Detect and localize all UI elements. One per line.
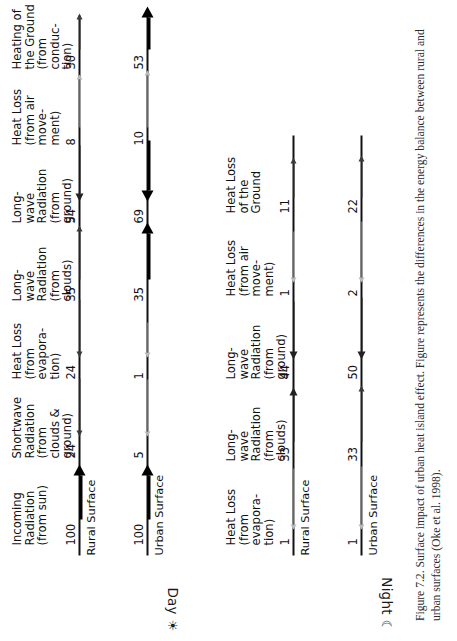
day-flux-6-rural-value: 30 bbox=[63, 55, 77, 70]
night-flux-3-caption: Heat Loss (from air move- ment) bbox=[224, 222, 274, 296]
night-rural-surface-label: Rural Surface bbox=[298, 479, 311, 555]
figure-rotation-wrapper: Day ☀ Rural Surface Urban Surface Incomi… bbox=[0, 0, 457, 641]
night-flux-3-urban-value: 2 bbox=[345, 289, 359, 296]
day-block: Day ☀ Rural Surface Urban Surface Incomi… bbox=[4, 0, 204, 641]
night-flux-0-urban-value: 1 bbox=[345, 538, 359, 545]
figure-caption-text: Figure 7.2. Surface impact of urban heat… bbox=[413, 21, 444, 621]
figure-caption: Figure 7.2. Surface impact of urban heat… bbox=[405, 14, 451, 628]
day-flux-3-rural-value: 35 bbox=[63, 287, 77, 302]
day-flux-6-urban-value: 53 bbox=[131, 55, 145, 70]
sun-icon: ☀ bbox=[166, 619, 179, 631]
day-flux-2-urban-value: 1 bbox=[131, 372, 145, 379]
night-flux-0-rural-value: 1 bbox=[277, 538, 291, 545]
day-flux-4-urban-value: 69 bbox=[131, 209, 145, 224]
night-block: Night ☾ Rural Surface Urban Surface Heat… bbox=[218, 0, 418, 641]
period-label-day: Day ☀ bbox=[164, 587, 180, 631]
day-flux-5-caption: Heat Loss (from air move- ment) bbox=[10, 71, 60, 145]
night-flux-2-rural-value: 44 bbox=[277, 365, 291, 380]
night-flux-4-rural-value: 11 bbox=[277, 199, 291, 214]
night-label: Night bbox=[378, 577, 394, 614]
day-flux-5-rural-value: 8 bbox=[63, 138, 77, 145]
day-flux-1-rural-value: 24 bbox=[63, 444, 77, 459]
night-flux-4-caption: Heat Loss of the Ground bbox=[224, 139, 262, 213]
day-label: Day bbox=[164, 587, 180, 614]
day-flux-2-rural-value: 24 bbox=[63, 365, 77, 380]
day-flux-1-urban-value: 5 bbox=[131, 451, 145, 458]
day-flux-0-caption: Incoming Radiation (from sun) bbox=[10, 471, 48, 545]
night-flux-3-rural-value: 1 bbox=[277, 289, 291, 296]
period-label-night: Night ☾ bbox=[378, 577, 394, 631]
day-flux-0-rural-value: 100 bbox=[63, 523, 77, 545]
day-flux-3-urban-value: 35 bbox=[131, 287, 145, 302]
night-flux-2-urban-value: 50 bbox=[345, 365, 359, 380]
day-rural-surface-label: Rural Surface bbox=[84, 479, 97, 555]
night-urban-surface-label: Urban Surface bbox=[366, 474, 379, 555]
moon-icon: ☾ bbox=[380, 619, 393, 631]
day-urban-surface-label: Urban Surface bbox=[152, 474, 165, 555]
day-flux-0-urban-value: 100 bbox=[131, 523, 145, 545]
night-flux-0-caption: Heat Loss (from evapora- tion) bbox=[224, 471, 274, 545]
day-flux-5-urban-value: 10 bbox=[131, 131, 145, 146]
night-flux-1-rural-value: 33 bbox=[277, 447, 291, 462]
night-flux-4-urban-value: 22 bbox=[345, 199, 359, 214]
night-flux-1-urban-value: 33 bbox=[345, 447, 359, 462]
energy-balance-figure: Day ☀ Rural Surface Urban Surface Incomi… bbox=[0, 0, 457, 641]
day-flux-2-caption: Heat Loss (from evapora- tion) bbox=[10, 305, 60, 379]
day-flux-4-rural-value: 54 bbox=[63, 209, 77, 224]
